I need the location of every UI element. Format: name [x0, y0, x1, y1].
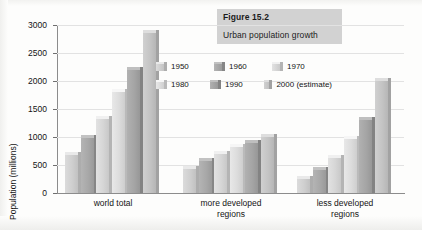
legend-swatch-top [156, 62, 164, 64]
bar-top-face [230, 144, 243, 147]
bar [328, 158, 341, 193]
bar [359, 120, 372, 193]
bar-top-face [245, 140, 258, 143]
bar-face [313, 170, 326, 193]
bar-face [261, 137, 274, 193]
bar-top-face [359, 117, 372, 120]
bar-top-face [65, 152, 78, 155]
x-axis-line [57, 193, 405, 194]
bar [313, 170, 326, 193]
figure-number: Figure 15.2 [217, 9, 342, 25]
bar-top-face [344, 136, 357, 139]
bar [81, 138, 94, 193]
bar-top-face [81, 135, 94, 138]
x-axis-category-label-line: regions [283, 209, 407, 220]
x-axis-category-label: more developedregions [169, 198, 293, 220]
legend-swatch-face [214, 64, 222, 71]
bar-face [214, 154, 227, 193]
bar [375, 81, 388, 193]
legend-swatch-top [210, 80, 218, 82]
legend-swatch-face [210, 82, 218, 89]
bar-face [359, 120, 372, 193]
y-axis-tick [53, 53, 57, 54]
legend-label: 1990 [225, 80, 243, 89]
page-edge-shading-top [0, 0, 422, 6]
y-axis-tick [53, 109, 57, 110]
plot-area [57, 25, 404, 193]
bar-face [81, 138, 94, 193]
legend-item: 1990 [210, 80, 264, 89]
bar [96, 119, 109, 193]
y-axis-tick [53, 165, 57, 166]
bar [230, 147, 243, 193]
legend-swatch-top [156, 80, 164, 82]
legend-item: 1950 [156, 62, 214, 71]
bar-face [297, 179, 310, 193]
legend-swatch-side [222, 62, 225, 71]
legend-swatch-icon [156, 62, 167, 71]
legend-swatch-face [156, 82, 164, 89]
legend-swatch-icon [210, 80, 221, 89]
bar-face [65, 155, 78, 193]
x-axis-category-label-line: more developed [169, 198, 293, 209]
y-axis-tick-label: 1500 [9, 104, 47, 114]
x-axis-category-label: less developedregions [283, 198, 407, 220]
bar [245, 143, 258, 193]
bar-face [245, 143, 258, 193]
legend-label: 1950 [171, 62, 189, 71]
legend-swatch-icon [264, 80, 272, 89]
bar-top-face [199, 158, 212, 161]
y-axis-tick-label: 2500 [9, 48, 47, 58]
y-axis-tick [53, 25, 57, 26]
legend-swatch-icon [214, 62, 225, 71]
bar [65, 155, 78, 193]
legend-item: 2000 (estimate) [264, 80, 332, 89]
bar [183, 169, 196, 193]
bar [112, 92, 125, 193]
bar [143, 33, 156, 193]
legend-item: 1970 [272, 62, 330, 71]
legend-label: 1980 [171, 80, 189, 89]
legend-label: 1960 [229, 62, 247, 71]
bar [261, 137, 274, 193]
chart-legend: 195019601970198019902000 (estimate) [156, 57, 332, 93]
bar-side-face [274, 134, 277, 193]
bar-top-face [96, 116, 109, 119]
y-axis-tick-label: 3000 [9, 20, 47, 30]
bar-top-face [127, 67, 140, 70]
bar-side-face [388, 78, 391, 193]
bar-face [127, 70, 140, 193]
bar-face [199, 161, 212, 193]
legend-swatch-face [272, 64, 280, 71]
bar [297, 179, 310, 193]
bar-top-face [183, 166, 196, 169]
legend-label: 1970 [287, 62, 305, 71]
bar-face [328, 158, 341, 193]
y-axis-tick-label: 0 [9, 188, 47, 198]
bar [344, 139, 357, 193]
bar-face [230, 147, 243, 193]
legend-swatch-icon [156, 80, 167, 89]
x-axis-category-label-line: world total [51, 198, 175, 209]
bar-top-face [375, 78, 388, 81]
x-axis-category-label: world total [51, 198, 175, 209]
y-axis-tick [53, 193, 57, 194]
legend-swatch-side [280, 62, 283, 71]
y-axis-tick-label: 500 [9, 160, 47, 170]
y-axis-tick-label: 2000 [9, 76, 47, 86]
legend-item: 1980 [156, 80, 210, 89]
bar-top-face [328, 155, 341, 158]
y-axis-tick-label: 1000 [9, 132, 47, 142]
x-axis-category-label-line: regions [169, 209, 293, 220]
figure-container: Figure 15.2 Urban population growth Popu… [0, 0, 422, 230]
bar [199, 161, 212, 193]
bar-face [143, 33, 156, 193]
legend-row: 198019902000 (estimate) [156, 75, 332, 93]
bar [214, 154, 227, 193]
bar-face [375, 81, 388, 193]
legend-swatch-side [164, 80, 167, 89]
legend-swatch-side [218, 80, 221, 89]
legend-swatch-side [164, 62, 167, 71]
bar-top-face [214, 151, 227, 154]
bar [127, 70, 140, 193]
